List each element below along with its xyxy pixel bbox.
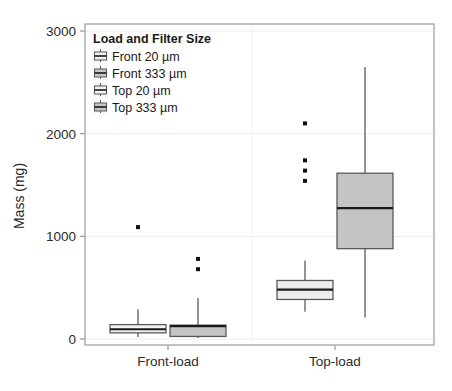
legend-item-0[interactable]: Front 20 µm <box>93 48 180 64</box>
legend-title: Load and Filter Size <box>93 32 211 46</box>
legend-item-label-3: Top 333 µm <box>112 101 178 115</box>
outlier-point-1 <box>303 169 307 173</box>
x-tick-label-top-load: Top-load <box>309 354 361 369</box>
outlier-point-0 <box>303 179 307 183</box>
chart-canvas: 0100020003000 Front-loadTop-load Mass (m… <box>0 0 452 391</box>
legend-item-label-1: Front 333 µm <box>112 67 187 81</box>
legend-item-1[interactable]: Front 333 µm <box>93 65 187 81</box>
outlier-point-0 <box>196 267 200 271</box>
boxplot-chart: 0100020003000 Front-loadTop-load Mass (m… <box>0 0 452 391</box>
y-axis-title: Mass (mg) <box>11 163 27 229</box>
y-tick-label-0: 0 <box>68 332 76 347</box>
box <box>337 173 393 248</box>
y-tick-label-3000: 3000 <box>46 24 76 39</box>
outlier-point-3 <box>303 121 307 125</box>
legend-item-label-2: Top 20 µm <box>112 84 171 98</box>
legend-item-3[interactable]: Top 333 µm <box>93 99 178 115</box>
x-tick-label-front-load: Front-load <box>137 354 199 369</box>
outlier-point-1 <box>196 257 200 261</box>
outlier-point-2 <box>303 158 307 162</box>
y-tick-label-2000: 2000 <box>46 127 76 142</box>
legend-item-2[interactable]: Top 20 µm <box>93 82 171 98</box>
y-tick-label-1000: 1000 <box>46 229 76 244</box>
legend-item-label-0: Front 20 µm <box>112 50 180 64</box>
outlier-point-0 <box>136 225 140 229</box>
